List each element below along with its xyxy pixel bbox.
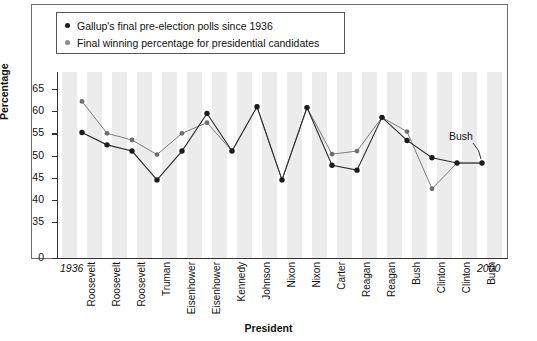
x-tick-label: Johnson	[261, 262, 272, 300]
data-point	[154, 177, 159, 182]
data-point	[354, 167, 359, 172]
x-axis-title: President	[0, 322, 537, 334]
x-tick-label: Reagan	[361, 262, 372, 297]
chart-figure: Gallup's final pre-election polls since …	[0, 0, 537, 341]
data-point	[205, 120, 210, 125]
data-point	[155, 152, 160, 157]
x-tick-label: Kennedy	[236, 262, 247, 301]
x-tick-label: Clinton	[436, 262, 447, 293]
data-point	[430, 186, 435, 191]
x-tick-label: Truman	[161, 262, 172, 296]
data-point	[279, 177, 284, 182]
data-point	[105, 131, 110, 136]
data-point	[405, 129, 410, 134]
x-tick-label: Clinton	[461, 262, 472, 293]
data-point	[130, 138, 135, 143]
data-point	[79, 130, 84, 135]
x-tick-label: Roosevelt	[111, 262, 122, 306]
data-point	[454, 160, 459, 165]
data-point	[254, 104, 259, 109]
x-tick-label: Carter	[336, 262, 347, 290]
data-point	[355, 149, 360, 154]
x-tick-label: Roosevelt	[86, 262, 97, 306]
data-point	[330, 152, 335, 157]
annotation-leader-line	[473, 143, 481, 159]
x-tick-label: Reagan	[386, 262, 397, 297]
data-point	[80, 99, 85, 104]
x-tick-label: Roosevelt	[136, 262, 147, 306]
x-axis-edge-left: 1936	[60, 262, 83, 274]
data-point	[304, 105, 309, 110]
series-line	[82, 107, 482, 180]
x-tick-label: Nixon	[311, 262, 322, 288]
x-tick-label: Nixon	[286, 262, 297, 288]
series-line	[82, 101, 482, 188]
x-tick-label: Bush	[411, 262, 422, 285]
data-point	[204, 111, 209, 116]
data-point	[104, 142, 109, 147]
data-point	[429, 155, 434, 160]
annotation-bush: Bush	[449, 130, 473, 142]
data-point	[404, 138, 409, 143]
source-note	[0, 335, 537, 341]
data-point	[229, 148, 234, 153]
x-axis-edge-right: 2000	[477, 262, 500, 274]
data-point	[129, 148, 134, 153]
x-tick-label: Eisenhower	[186, 262, 197, 314]
data-point	[329, 163, 334, 168]
x-tick-label: Eisenhower	[211, 262, 222, 314]
data-point	[179, 148, 184, 153]
data-point	[379, 115, 384, 120]
data-point	[180, 131, 185, 136]
data-point	[479, 160, 484, 165]
